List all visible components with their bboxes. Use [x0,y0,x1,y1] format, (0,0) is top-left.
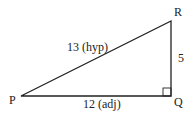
hypotenuse-label: 13 (hyp) [67,40,108,54]
vertex-label-p: P [9,93,16,107]
adjacent-label: 12 (adj) [83,97,121,111]
vertex-label-r: R [174,5,182,19]
opposite-label: 5 [178,51,184,65]
right-angle-marker [163,88,171,96]
vertex-label-q: Q [174,95,183,109]
triangle-pqr [21,21,171,96]
right-triangle-diagram: R Q P 13 (hyp) 12 (adj) 5 [0,0,193,115]
